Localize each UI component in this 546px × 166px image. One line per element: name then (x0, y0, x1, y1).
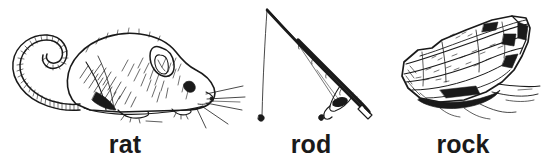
rock-drawing (380, 0, 546, 132)
vocabulary-item-rock: rock (380, 0, 546, 166)
rod-illustration (236, 0, 386, 132)
vocabulary-card-sheet: rat (0, 0, 546, 166)
vocabulary-label-rock: rock (380, 132, 546, 157)
vocabulary-item-rat: rat (0, 0, 250, 166)
rod-drawing (236, 0, 386, 132)
vocabulary-label-rat: rat (0, 132, 250, 157)
rat-drawing (0, 0, 250, 132)
rock-illustration (380, 0, 546, 132)
rat-illustration (0, 0, 250, 132)
vocabulary-label-rod: rod (236, 132, 386, 157)
vocabulary-item-rod: rod (236, 0, 386, 166)
